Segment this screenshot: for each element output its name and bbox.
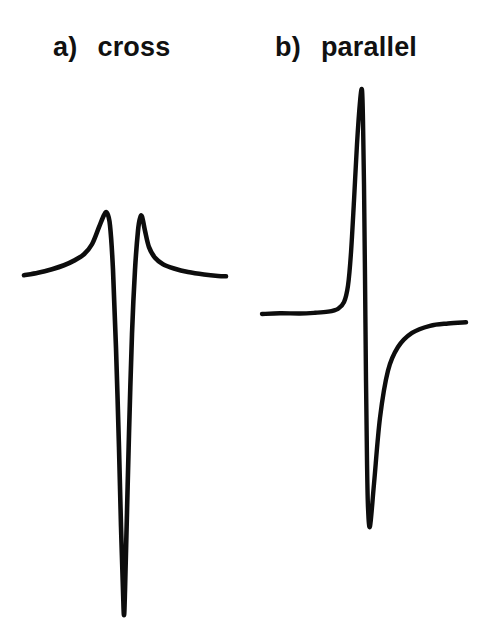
spectra-plot-area [0, 0, 480, 641]
spectrum-trace-cross [24, 212, 226, 615]
spectrum-trace-parallel [262, 89, 466, 527]
figure-container: a)cross b)parallel [0, 0, 480, 641]
